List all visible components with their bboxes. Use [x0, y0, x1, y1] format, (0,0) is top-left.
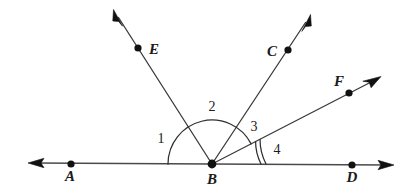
angle-label-3: 3 [251, 119, 258, 134]
arrow-bf-icon [363, 77, 381, 88]
arrow-bc-icon [302, 15, 312, 32]
angle-label-4: 4 [274, 142, 281, 157]
angle-label-2: 2 [209, 99, 216, 114]
point-label-d: D [346, 169, 358, 185]
diagram-canvas: A B D E C F 1 2 3 4 [0, 0, 414, 190]
ray-bc [212, 23, 306, 165]
point-label-b: B [206, 171, 217, 187]
point-dot-f [345, 89, 352, 96]
point-label-e: E [148, 41, 159, 57]
angle-label-1: 1 [158, 131, 165, 146]
point-label-f: F [333, 73, 344, 89]
geometry-diagram: A B D E C F 1 2 3 4 [0, 0, 414, 190]
point-dot-c [284, 46, 291, 53]
point-dot-e [134, 44, 141, 51]
ray-bf-group [212, 77, 381, 165]
angle-arc-4-outer [260, 139, 266, 164]
angle-arc-main [168, 120, 251, 164]
point-dot-d [348, 161, 355, 168]
point-dot-a [67, 160, 74, 167]
point-dot-b [208, 160, 217, 169]
ray-be [119, 18, 213, 165]
ray-bc-group [212, 15, 311, 165]
point-label-c: C [267, 43, 278, 59]
arrow-be-icon [113, 10, 123, 27]
point-label-a: A [64, 168, 75, 184]
